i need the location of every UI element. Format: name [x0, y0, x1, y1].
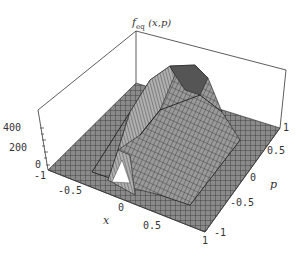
z-axis-ticks [40, 128, 50, 165]
x-tick-0: 0 [118, 202, 124, 213]
plot-title: feq (x,p) [132, 16, 171, 31]
x-tick-neg1: -1 [34, 170, 46, 181]
p-tick-1: 1 [283, 122, 289, 133]
x-tick-1: 1 [202, 235, 208, 246]
p-tick-neg0.5: -0.5 [230, 197, 254, 208]
p-axis-label: p [270, 178, 277, 191]
x-tick-neg0.5: -0.5 [58, 185, 82, 196]
x-tick-0.5: 0.5 [143, 220, 161, 231]
z-tick-0: 0 [35, 159, 41, 170]
z-tick-400: 400 [3, 122, 21, 133]
z-tick-200: 200 [9, 142, 27, 153]
x-axis-label: x [103, 214, 109, 227]
p-tick-0: 0 [250, 172, 256, 183]
p-tick-0.5: 0.5 [267, 145, 285, 156]
p-tick-neg1: -1 [214, 227, 226, 238]
